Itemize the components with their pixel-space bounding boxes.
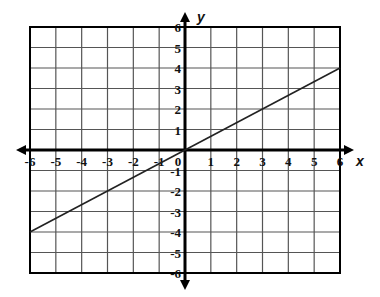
y-tick-label: 2 (175, 102, 182, 117)
x-tick-label: 3 (259, 154, 266, 169)
y-tick-label: -5 (170, 246, 181, 261)
y-tick-label: 4 (175, 61, 182, 76)
x-tick-label: -3 (102, 154, 113, 169)
x-tick-label: -4 (76, 154, 87, 169)
y-tick-label: -1 (170, 164, 181, 179)
y-tick-label: -6 (170, 266, 181, 281)
y-tick-label: 6 (175, 20, 182, 35)
x-tick-label: 6 (337, 154, 344, 169)
x-axis-arrow-right-icon (344, 145, 354, 155)
x-tick-label: 1 (208, 154, 215, 169)
y-axis-arrow-up-icon (180, 12, 190, 22)
x-axis-label: x (355, 153, 365, 169)
y-tick-label: 1 (175, 123, 182, 138)
x-tick-label: 4 (285, 154, 292, 169)
y-axis-arrow-down-icon (180, 280, 190, 290)
y-axis-label: y (196, 9, 206, 25)
axes (16, 12, 354, 290)
x-tick-label: 2 (233, 154, 240, 169)
y-tick-label: 5 (175, 41, 182, 56)
y-tick-label: 3 (175, 82, 182, 97)
y-tick-label: -3 (170, 205, 181, 220)
x-tick-label: -5 (50, 154, 61, 169)
x-tick-label: 5 (311, 154, 318, 169)
x-tick-label: -2 (128, 154, 139, 169)
coordinate-plane: -6-5-4-3-2-10123456-6-5-4-3-2-1123456 x … (0, 0, 380, 297)
y-tick-label: -2 (170, 184, 181, 199)
x-tick-label: -6 (25, 154, 36, 169)
y-tick-label: -4 (170, 225, 181, 240)
